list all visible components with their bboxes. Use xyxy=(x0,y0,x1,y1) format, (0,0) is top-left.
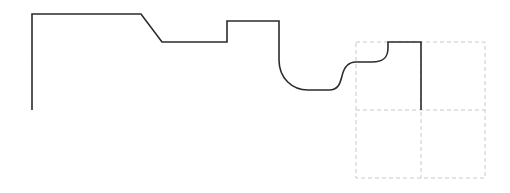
profile-path xyxy=(32,14,421,110)
profile-outline xyxy=(32,14,421,110)
diagram-canvas xyxy=(0,0,510,193)
